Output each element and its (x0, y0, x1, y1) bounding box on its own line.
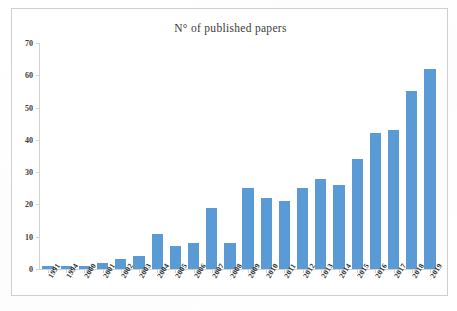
bar (242, 188, 253, 269)
bar (279, 201, 290, 269)
y-axis-tick-mark (36, 43, 39, 44)
bar (406, 91, 417, 269)
y-axis-tick-mark (36, 140, 39, 141)
chart-title: N° of published papers (12, 22, 449, 34)
chart-figure: N° of published papers 010203040506070 1… (11, 8, 448, 296)
bar (388, 130, 399, 269)
plot-area: 010203040506070 (39, 43, 439, 269)
y-axis-tick-mark (36, 75, 39, 76)
y-axis-tick-label: 70 (25, 39, 33, 48)
bar (315, 179, 326, 269)
bar (370, 133, 381, 269)
y-axis-tick-label: 40 (25, 135, 33, 144)
bar (297, 188, 308, 269)
bar (261, 198, 272, 269)
y-axis-tick-label: 60 (25, 71, 33, 80)
y-axis-tick-mark (36, 204, 39, 205)
bar (424, 69, 435, 269)
y-axis-tick-label: 30 (25, 168, 33, 177)
bar (352, 159, 363, 269)
y-axis-tick-label: 0 (29, 265, 33, 274)
y-axis-tick-label: 50 (25, 103, 33, 112)
y-axis-tick-label: 10 (25, 232, 33, 241)
y-axis-tick-mark (36, 172, 39, 173)
y-axis-tick-label: 20 (25, 200, 33, 209)
bar (333, 185, 344, 269)
bar (206, 208, 217, 269)
x-axis: 1991199420002001200220032004200520062007… (39, 270, 440, 310)
y-axis-tick-mark (36, 108, 39, 109)
y-axis-tick-mark (36, 237, 39, 238)
